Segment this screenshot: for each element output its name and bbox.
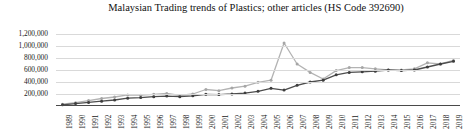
- y-axis-tick-label: 1,000,000: [0, 42, 48, 50]
- x-axis-tick-label: 1997: [170, 115, 178, 129]
- y-axis-tick-label: 400,000: [0, 78, 48, 86]
- data-point: [87, 101, 90, 104]
- data-point: [309, 71, 312, 74]
- data-point: [452, 60, 455, 63]
- data-point: [348, 66, 351, 69]
- data-point: [178, 95, 181, 98]
- data-point: [139, 96, 142, 99]
- x-axis-tick-label: 2017: [430, 115, 438, 129]
- x-axis-tick-label: 2001: [222, 115, 230, 129]
- x-axis-tick-label: 1996: [157, 115, 165, 129]
- x-axis-tick-label: 1994: [131, 115, 139, 129]
- x-axis-tick-label: 1989: [66, 115, 74, 129]
- x-axis-tick-label: 2014: [391, 115, 399, 129]
- data-point: [296, 63, 299, 66]
- x-axis-tick-label: 1995: [144, 115, 152, 129]
- x-axis-tick-label: 2009: [326, 115, 334, 129]
- data-point: [165, 95, 168, 98]
- y-axis-tick-label: 200,000: [0, 90, 48, 98]
- y-axis: 1,200,0001,000,000800,000600,000400,0002…: [0, 28, 52, 112]
- x-axis-tick-label: 2004: [261, 115, 269, 129]
- gridline: [56, 70, 460, 71]
- x-axis-tick-label: 1998: [183, 115, 191, 129]
- data-point: [230, 87, 233, 90]
- data-point: [126, 97, 129, 100]
- x-axis: 1989199019911992199319941995199619971998…: [56, 107, 460, 131]
- series-line-exports: [63, 43, 454, 104]
- gridline: [56, 46, 460, 47]
- data-point: [100, 97, 103, 100]
- x-axis-tick-label: 2018: [443, 115, 451, 129]
- chart-figure: Malaysian Trading trends of Plastics; ot…: [0, 0, 468, 131]
- x-axis-tick-label: 2019: [456, 115, 464, 129]
- y-axis-tick-label: 800,000: [0, 54, 48, 62]
- x-axis-tick-label: 2010: [339, 115, 347, 129]
- data-point: [243, 85, 246, 88]
- gridline: [56, 94, 460, 95]
- x-axis-tick-label: 2012: [365, 115, 373, 129]
- gridline: [56, 34, 460, 35]
- data-point: [113, 96, 116, 99]
- x-axis-tick-label: 2000: [209, 115, 217, 129]
- x-axis-tick-label: 2015: [404, 115, 412, 129]
- data-point: [152, 95, 155, 98]
- x-axis-tick-label: 2016: [417, 115, 425, 129]
- x-axis-tick-label: 2013: [378, 115, 386, 129]
- data-point: [348, 71, 351, 74]
- data-point: [439, 63, 442, 66]
- data-point: [283, 89, 286, 92]
- data-point: [426, 61, 429, 64]
- x-axis-tick-label: 2007: [300, 115, 308, 129]
- x-axis-tick-label: 2008: [313, 115, 321, 129]
- data-point: [296, 84, 299, 87]
- data-point: [270, 87, 273, 90]
- x-axis-tick-label: 1990: [79, 115, 87, 129]
- data-point: [204, 88, 207, 91]
- chart-title: Malaysian Trading trends of Plastics; ot…: [58, 2, 454, 15]
- data-point: [426, 66, 429, 69]
- x-axis-tick-label: 1993: [118, 115, 126, 129]
- data-point: [217, 89, 220, 92]
- gridline: [56, 82, 460, 83]
- data-point: [335, 73, 338, 76]
- data-point: [257, 90, 260, 93]
- y-axis-tick-label: 1,200,000: [0, 30, 48, 38]
- x-axis-tick-label: 2005: [274, 115, 282, 129]
- data-point: [361, 66, 364, 69]
- x-axis-tick-label: 2011: [352, 115, 360, 129]
- gridline: [56, 58, 460, 59]
- y-axis-tick-label: 600,000: [0, 66, 48, 74]
- x-axis-tick-label: 1991: [92, 115, 100, 129]
- x-axis-tick-label: 2003: [248, 115, 256, 129]
- x-axis-tick-label: 2002: [235, 115, 243, 129]
- plot-area: [56, 34, 460, 106]
- data-point: [113, 99, 116, 102]
- data-point: [100, 100, 103, 103]
- x-axis-tick-label: 1992: [105, 115, 113, 129]
- x-axis-tick-label: 1999: [196, 115, 204, 129]
- data-point: [283, 42, 286, 45]
- x-axis-tick-label: 2006: [287, 115, 295, 129]
